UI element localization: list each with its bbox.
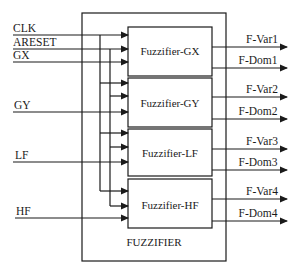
output-label-fvar3: F-Var3: [246, 135, 278, 147]
input-label-gy: GY: [14, 99, 31, 111]
block-label: Fuzzifier-GY: [140, 97, 199, 109]
fuzzifier-title: FUZZIFIER: [127, 236, 183, 248]
output-label-fvar1: F-Var1: [246, 33, 278, 45]
output-label-fdom3: F-Dom3: [239, 156, 278, 168]
block-fuzzifier-gx: Fuzzifier-GX: [128, 27, 212, 76]
input-label-gx: GX: [13, 49, 30, 61]
fuzzifier-block-diagram: FUZZIFIER Fuzzifier-GX Fuzzifier-GY Fuzz…: [0, 0, 301, 266]
input-label-hf: HF: [16, 205, 31, 217]
block-fuzzifier-gy: Fuzzifier-GY: [128, 78, 212, 127]
input-label-areset: ARESET: [13, 36, 56, 48]
input-label-lf: LF: [15, 149, 28, 161]
input-label-clk: CLK: [13, 22, 37, 34]
block-label: Fuzzifier-LF: [142, 147, 198, 159]
block-fuzzifier-lf: Fuzzifier-LF: [128, 129, 212, 176]
block-label: Fuzzifier-HF: [141, 199, 198, 211]
output-label-fdom2: F-Dom2: [239, 105, 278, 117]
output-label-fvar2: F-Var2: [246, 83, 278, 95]
block-label: Fuzzifier-GX: [140, 45, 199, 57]
output-label-fdom4: F-Dom4: [239, 207, 278, 219]
output-label-fdom1: F-Dom1: [239, 54, 278, 66]
output-label-fvar4: F-Var4: [246, 185, 278, 197]
block-fuzzifier-hf: Fuzzifier-HF: [128, 179, 212, 228]
